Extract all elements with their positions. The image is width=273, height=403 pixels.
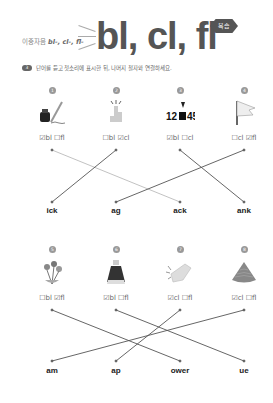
- blank-number-icon: 1245: [165, 98, 195, 126]
- ending-word[interactable]: ank: [224, 206, 264, 215]
- ending-word[interactable]: ag: [96, 206, 136, 215]
- item-number: 1: [49, 87, 56, 94]
- ending-word[interactable]: ower: [160, 366, 200, 375]
- line-3-ank: [180, 150, 244, 202]
- clicking-hand-icon: [101, 98, 131, 126]
- choice-item-2[interactable]: ☐bl ☑cl: [86, 134, 146, 142]
- line-8-am: [52, 310, 244, 361]
- ending-word[interactable]: ick: [32, 206, 72, 215]
- clam-icon: [229, 258, 259, 286]
- ink-pen-icon: [37, 98, 67, 126]
- choice-item-7[interactable]: ☑cl ☐fl: [150, 294, 210, 302]
- item-number: 4: [241, 87, 248, 94]
- item-number: 3: [177, 87, 184, 94]
- ending-word[interactable]: ue: [224, 366, 264, 375]
- choice-item-6[interactable]: ☑bl ☐fl: [86, 294, 146, 302]
- item-number: 8: [241, 246, 248, 253]
- choice-item-4[interactable]: ☐cl ☑fl: [214, 134, 273, 142]
- svg-text:45: 45: [187, 111, 195, 122]
- choice-item-3[interactable]: ☑bl ☐cl: [150, 134, 210, 142]
- line-6-ue: [116, 310, 244, 361]
- item-number: 5: [49, 246, 56, 253]
- line-2-ick: [52, 150, 116, 202]
- svg-text:12: 12: [166, 111, 178, 122]
- flower-icon: [37, 258, 67, 286]
- item-number: 2: [113, 87, 120, 94]
- choice-item-8[interactable]: ☑cl ☐fl: [214, 294, 273, 302]
- flag-icon: [229, 98, 259, 126]
- blue-paint-icon: [101, 258, 131, 286]
- choice-item-5[interactable]: ☐bl ☑fl: [22, 294, 82, 302]
- ending-word[interactable]: am: [32, 366, 72, 375]
- ending-word[interactable]: ack: [160, 206, 200, 215]
- clap-icon: [165, 258, 195, 286]
- connection-lines: [0, 0, 273, 403]
- line-4-ag: [116, 150, 244, 202]
- line-5-ower: [52, 310, 180, 361]
- ending-word[interactable]: ap: [96, 366, 136, 375]
- choice-item-1[interactable]: ☑bl ☐fl: [22, 134, 82, 142]
- item-number: 7: [177, 246, 184, 253]
- line-1-ack: [52, 150, 180, 202]
- item-number: 6: [113, 246, 120, 253]
